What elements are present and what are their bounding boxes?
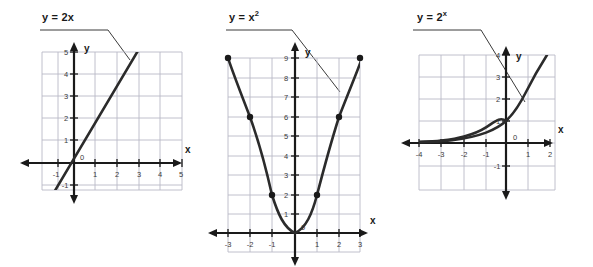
y-tick-label: 9 [284,54,288,63]
y-tick-label: 3 [496,73,500,82]
x-axis-label: x [185,144,191,155]
x-tick-label: 1 [526,150,530,159]
x-tick-label: -2 [247,240,254,249]
y-tick-label: 4 [284,152,288,161]
x-axis-label: x [370,215,376,226]
graph-panel-linear: y = 2x [0,0,198,267]
x-tick-label: -3 [225,240,232,249]
x-tick-label: 2 [337,240,341,249]
y-tick-label: 1 [64,136,68,145]
x-axis-label: x [558,124,564,135]
y-tick-label: 2 [496,95,500,104]
x-tick-label: -3 [438,150,445,159]
x-tick-label: 4 [158,170,162,179]
y-tick-label: 5 [284,132,288,141]
graph-panel-exponential: y = 2x [395,0,593,267]
x-tick-label: 3 [358,240,362,249]
y-axis-label: y [305,47,311,58]
y-negative-tick-label: -1 [62,181,69,190]
superscript-2: 2 [255,9,259,18]
data-point [357,55,363,61]
equation-label-quadratic: y = x2 [229,11,259,23]
x-tick-label: -4 [416,150,423,159]
three-function-graphs-figure: y = 2x [0,0,593,267]
y-tick-label: 2 [284,191,288,200]
linear-graph-svg: -1 1 2 3 4 5 1 2 3 4 5 -1 0 y x [0,0,198,267]
y-tick-label: 1 [496,117,500,126]
equation-label-linear: y = 2x [42,11,74,23]
y-negative-tick-label: -1 [494,162,501,171]
y-axis-label: y [516,51,522,62]
y-tick-label: 7 [284,93,288,102]
data-point [225,55,231,61]
y-axis-linear [70,42,78,204]
x-tick-label: -1 [483,150,490,159]
x-tick-label: -1 [269,240,276,249]
y-tick-label: 3 [284,171,288,180]
y-axis-label: y [84,43,90,54]
data-point [314,192,320,198]
y-tick-label: 3 [64,92,68,101]
y-tick-label: 4 [64,70,68,79]
x-tick-label: 2 [548,150,552,159]
x-tick-label: 1 [93,170,97,179]
quadratic-graph-svg: -3 -2 -1 1 2 3 1 2 3 4 5 6 7 8 9 0 y x [198,0,395,267]
origin-label: 0 [513,133,517,142]
x-tick-label: 5 [179,170,183,179]
x-axis-linear [20,159,182,167]
data-point [247,114,253,120]
callout-leader-exponential [413,30,525,102]
x-tick-label: 2 [115,170,119,179]
equation-label-exponential: y = 2x [417,11,447,23]
x-tick-label: -1 [53,170,60,179]
x-tick-label: 1 [315,240,319,249]
y-tick-label: 5 [64,48,68,57]
data-point [336,114,342,120]
x-tick-label: 3 [137,170,141,179]
origin-label: 0 [80,153,84,162]
y-tick-label: 2 [64,114,68,123]
origin-label: 0 [301,223,305,232]
x-axis-quadratic [208,229,368,237]
data-point [269,192,275,198]
x-tick-label: -2 [461,150,468,159]
y-tick-label: 4 [496,51,500,60]
exponential-graph-svg: -4 -3 -2 -1 1 2 1 2 3 4 -1 0 y x [395,0,593,267]
graph-panel-quadratic: y = x2 [198,0,395,267]
y-tick-label: 8 [284,74,288,83]
superscript-x: x [443,9,447,18]
y-tick-label: 1 [284,210,288,219]
y-tick-label: 6 [284,113,288,122]
